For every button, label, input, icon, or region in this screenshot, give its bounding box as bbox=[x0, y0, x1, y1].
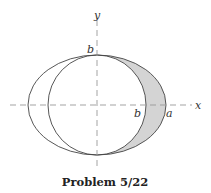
right-a-label: a bbox=[166, 107, 173, 120]
caption: Problem 5/22 bbox=[62, 175, 148, 189]
y-axis-label: y bbox=[93, 9, 101, 22]
top-b-label: b bbox=[87, 43, 94, 56]
x-axis-label: x bbox=[195, 99, 202, 112]
diagram: y x b b a Problem 5/22 bbox=[0, 0, 211, 193]
right-b-label: b bbox=[134, 107, 141, 120]
